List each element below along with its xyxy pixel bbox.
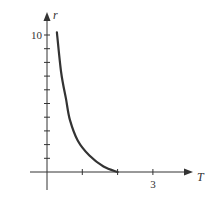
chart-plot: 3 10 T r bbox=[0, 0, 208, 201]
x-axis-label: T bbox=[197, 170, 205, 184]
x-axis-arrow-icon bbox=[184, 169, 193, 176]
axes bbox=[30, 12, 193, 190]
y-tick-label-10: 10 bbox=[31, 29, 43, 41]
y-axis-label: r bbox=[53, 8, 58, 22]
x-tick-label-3: 3 bbox=[150, 178, 156, 190]
y-axis-arrow-icon bbox=[44, 12, 51, 21]
data-curve bbox=[57, 32, 118, 172]
